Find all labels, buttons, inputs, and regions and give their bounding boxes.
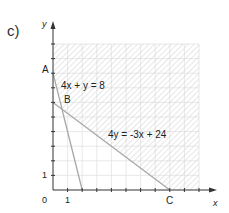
y-tick-label: 1: [42, 171, 47, 180]
part-label: c): [7, 22, 20, 39]
point-b-label: B: [64, 95, 71, 105]
y-axis-label: y: [42, 20, 47, 29]
y-axis-arrow: [51, 21, 56, 29]
x-axis-arrow: [209, 188, 217, 193]
origin-label: 0: [42, 196, 47, 205]
point-a-label: A: [42, 65, 49, 75]
equation-line2: 4y = -3x + 24: [108, 130, 166, 140]
coordinate-plane: [0, 0, 229, 213]
x-axis-label: x: [213, 199, 218, 208]
equation-line1: 4x + y = 8: [61, 81, 105, 91]
point-c-label: C: [166, 196, 173, 206]
x-tick-label: 1: [65, 196, 70, 205]
